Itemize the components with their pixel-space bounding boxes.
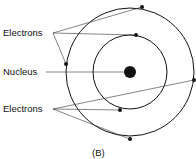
figure-caption: (B) — [92, 148, 105, 158]
leader-lines — [46, 7, 194, 139]
nucleus — [124, 66, 136, 78]
nucleus-label: Nucleus — [3, 67, 37, 77]
electrons-label-top: Electrons — [3, 28, 43, 38]
atom-diagram — [0, 0, 196, 159]
electrons-label-bottom: Electrons — [3, 104, 43, 114]
